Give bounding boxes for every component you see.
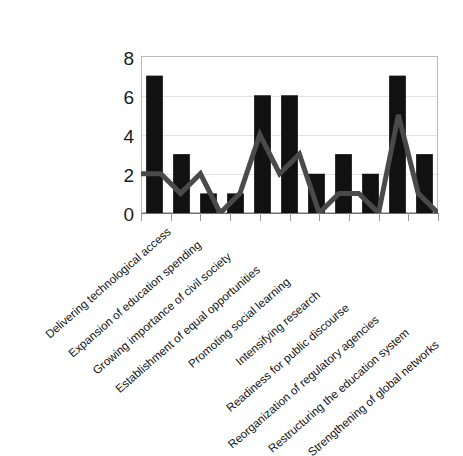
y-tick-label-8: 8 [108,49,134,68]
x-axis-label-10: Strengthening of global networks [206,339,440,456]
x-tick [230,213,231,221]
x-axis-label-2: Expansion of education spending [0,238,203,444]
bar [146,76,163,213]
x-tick [260,213,261,221]
x-axis-label-4: Establishment of equal opportunities [28,263,262,456]
x-tick [379,213,380,221]
x-tick [290,213,291,221]
x-axis-ticks [141,213,438,222]
chart-figure: 8 6 4 2 0 Delivering technological acces… [0,0,463,456]
x-axis-label-8: Reorganization of regulatory agencies [147,314,381,456]
y-tick-label-0: 0 [108,205,134,224]
x-axis-label-3: Growing importance of civil society [0,251,232,456]
x-tick [200,213,201,221]
bar [335,154,352,213]
chart-canvas [141,56,438,213]
y-tick-label-4: 4 [108,127,134,146]
x-axis-label-6: Intensifying research [87,288,321,456]
x-tick [349,213,350,221]
x-axis-label-9: Restructuring the education system [177,326,411,456]
x-axis-label-5: Promoting social learning [58,276,292,456]
bar-series [146,76,433,213]
x-tick [319,213,320,221]
x-tick [438,213,439,221]
bar [281,95,298,213]
x-axis-label-7: Readiness for public discourse [117,301,351,456]
x-tick [141,213,142,221]
y-tick-label-2: 2 [108,166,134,185]
x-tick [408,213,409,221]
x-tick [171,213,172,221]
x-axis-label-1: Delivering technological access [0,225,173,431]
y-tick-label-6: 6 [108,88,134,107]
